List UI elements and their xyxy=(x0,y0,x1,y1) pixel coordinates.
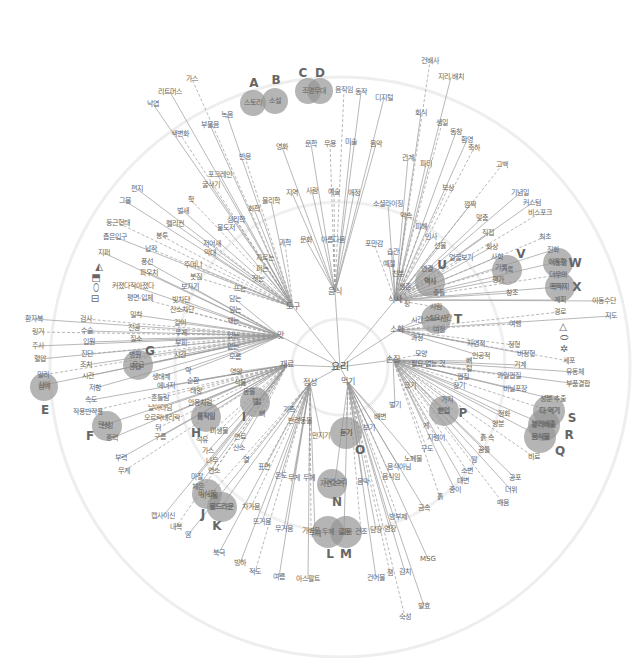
node-label: 물리학 xyxy=(262,198,280,205)
node-label: 포만감 xyxy=(365,241,383,248)
primary-node-label: 정성 xyxy=(303,379,317,387)
node-label: 보기 xyxy=(363,425,375,432)
node-label: 기념일 xyxy=(511,190,529,197)
circle-text: 스토리 xyxy=(244,100,262,107)
circle-letter-o: O xyxy=(355,444,365,456)
node-label: 평가 xyxy=(492,277,504,284)
node-label: 비스포크 xyxy=(528,210,552,217)
node-label: 잼 xyxy=(387,570,393,577)
node-label: 커졌다작아졌다 xyxy=(112,283,154,290)
node-label: 학 xyxy=(188,197,194,204)
node-label: 사람 xyxy=(306,188,318,195)
node-label: 구름 xyxy=(154,434,166,441)
node-label: 계획 xyxy=(554,297,566,304)
node-label: 환영 xyxy=(461,137,473,144)
node-label: 시간 xyxy=(82,373,94,380)
node-label: 낙엽 xyxy=(147,101,159,108)
node-label: 화학 xyxy=(248,206,260,213)
node-label: 무거움 xyxy=(275,526,293,533)
node-label: 동창 xyxy=(450,129,462,136)
circle-letter-t: T xyxy=(454,313,462,325)
connector-line xyxy=(335,142,351,292)
node-label: 최초 xyxy=(539,234,551,241)
node-label: 회식 xyxy=(415,110,427,117)
node-label: 땀 xyxy=(185,532,191,539)
circle-letter-i: I xyxy=(242,411,246,423)
node-label: 가스 xyxy=(186,76,198,83)
node-label: 무게 xyxy=(175,330,187,337)
circle-letter-p: P xyxy=(459,407,468,419)
node-label: 주머니 xyxy=(184,262,202,269)
triangle-shape-icon: △ xyxy=(559,322,567,332)
node-label: 게 xyxy=(423,423,429,430)
node-label: 애정 xyxy=(348,190,360,197)
connector-line xyxy=(236,220,293,307)
node-label: 영양 xyxy=(230,369,242,376)
circle-text: 움직임 xyxy=(197,414,215,421)
node-label: 산소차단 xyxy=(170,307,194,314)
circle-text: 심야 xyxy=(38,384,50,391)
primary-node-label: 소화 xyxy=(390,326,404,334)
circle-letter-c: C xyxy=(299,67,308,79)
node-label: 두께 xyxy=(303,475,315,482)
primary-node-label: 먹기 xyxy=(341,378,355,386)
node-label: 덮는 xyxy=(229,307,241,314)
circle-text: 무대 xyxy=(314,88,326,95)
node-label: 자르는 xyxy=(256,255,274,262)
circle-letter-r: R xyxy=(564,429,573,441)
node-label: 주사 xyxy=(32,343,44,350)
primary-node-label: 음식 xyxy=(328,288,342,296)
node-label: 크기 xyxy=(404,383,416,390)
node-label: 반응 xyxy=(239,154,251,161)
node-label: 건조 xyxy=(355,529,367,536)
circle-letter-l: L xyxy=(326,548,334,560)
node-label: 질소 xyxy=(130,336,142,343)
ellipse-shape-icon: ⬯ xyxy=(93,283,99,293)
node-label: 모름 xyxy=(229,354,241,361)
node-label: 반려동물 xyxy=(288,418,312,425)
node-label: 비닐포장 xyxy=(503,386,527,393)
node-label: 자연적 xyxy=(467,341,485,348)
node-label: 시간 xyxy=(411,317,423,324)
node-label: 진단 xyxy=(81,351,93,358)
node-label: 보자기 xyxy=(181,284,199,291)
node-label: 습관 xyxy=(387,249,399,256)
node-label: 꿈틀 xyxy=(478,447,490,454)
node-label: 뼈 xyxy=(259,411,265,418)
node-label: 온도 xyxy=(275,473,287,480)
node-label: 마찰 xyxy=(191,474,203,481)
node-label: 지렁이 xyxy=(427,435,445,442)
node-label: 뒤 xyxy=(155,425,161,432)
node-label: 숙성 xyxy=(399,614,411,621)
node-label: 빙하 xyxy=(234,560,246,567)
circle-letter-g: G xyxy=(145,345,155,357)
pyramid-shape-icon: ◭ xyxy=(95,262,103,272)
node-label: 성분 추출 xyxy=(540,396,566,403)
node-label: 보상 xyxy=(442,185,454,192)
node-label: 막대 xyxy=(204,250,216,257)
node-label: 북극 xyxy=(213,550,225,557)
node-label: 커스텀 xyxy=(523,200,541,207)
primary-node-label: 도구 xyxy=(286,303,300,311)
node-label: 필요 없는 것 xyxy=(411,361,445,368)
node-label: 생태계 xyxy=(152,374,170,381)
node-label: 가족 xyxy=(283,407,295,414)
center-node-label: 요리 xyxy=(331,362,349,372)
node-label: 음악 xyxy=(357,479,369,486)
circle-text: 분리배출 xyxy=(532,422,556,429)
node-label: 조치 xyxy=(80,362,92,369)
node-label: 뼈 xyxy=(466,358,472,365)
node-label: 과정 xyxy=(411,335,423,342)
connector-line xyxy=(335,292,340,367)
circle-text: 한입 xyxy=(438,408,450,415)
node-label: 과학 xyxy=(279,240,291,247)
node-label: 차가움 xyxy=(242,504,260,511)
node-label: 장기 xyxy=(453,383,465,390)
node-label: 연료 xyxy=(234,434,246,441)
node-label: 편지 xyxy=(131,186,143,193)
circle-letter-s: S xyxy=(568,412,577,424)
mindmap-diagram: 음식식사소화손질먹기정성재료맛도구가스리트머스낙엽색변화녹음부물음반응영화문학무… xyxy=(0,0,633,658)
node-label: 굴삭기 xyxy=(202,182,220,189)
node-label: 생일 xyxy=(436,120,448,127)
node-label: 흔들림 xyxy=(151,395,169,402)
